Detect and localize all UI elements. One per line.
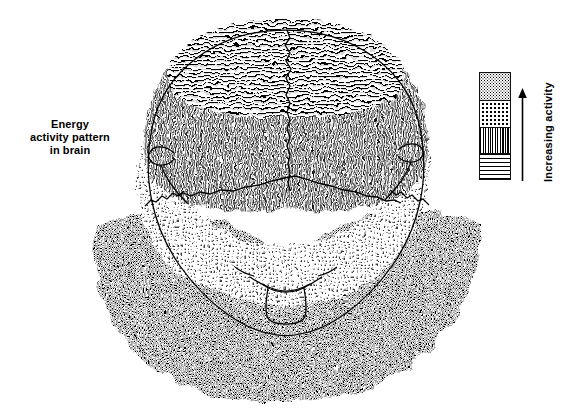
legend-band-sparse-dots <box>480 100 510 127</box>
caption-line-2: activity pattern <box>16 131 124 144</box>
legend: Increasing activity <box>470 62 570 192</box>
caption-line-1: Energy <box>16 118 124 131</box>
legend-band-horizontal-lines <box>480 153 510 179</box>
caption-line-3: in brain <box>16 144 124 157</box>
legend-title: Increasing activity <box>542 52 556 182</box>
legend-band-vertical-wavy <box>480 127 510 153</box>
up-arrow-icon <box>517 88 528 181</box>
legend-gradient-bar <box>479 72 511 180</box>
region-frontal-lowest-activity <box>168 18 404 117</box>
figure-caption: Energy activity pattern in brain <box>16 118 124 157</box>
legend-band-dense-stipple <box>480 73 510 100</box>
figure-canvas: Energy activity pattern in brain Increas… <box>0 0 572 416</box>
